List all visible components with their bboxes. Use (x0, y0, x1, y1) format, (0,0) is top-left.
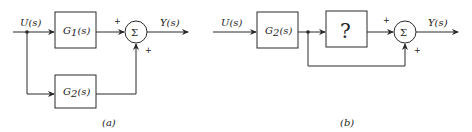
caption-b: (b) (340, 117, 354, 128)
input-label: U(s) (20, 17, 41, 28)
caption-a: (a) (102, 117, 116, 128)
question-mark: ? (340, 19, 351, 43)
plus-sign-top: + (114, 17, 121, 26)
branch-to-g2-line (27, 32, 54, 94)
plus-sign-top: + (383, 16, 390, 25)
g2-to-sum-line (96, 44, 136, 94)
block-diagrams: U(s) G1(s) + G2(s) + Σ Y(s) (a) U(s) G2(… (0, 0, 472, 132)
input-label: U(s) (221, 17, 242, 28)
output-label: Y(s) (160, 17, 180, 28)
plus-sign-bottom: + (145, 46, 152, 55)
diagram-b: U(s) G2(s) ? + + Σ Y(s) (b) (213, 11, 458, 128)
output-label: Y(s) (428, 17, 448, 28)
diagram-a: U(s) G1(s) + G2(s) + Σ Y(s) (a) (13, 12, 188, 128)
plus-sign-bottom: + (414, 46, 421, 55)
sigma-symbol: Σ (131, 27, 138, 38)
sigma-symbol: Σ (400, 27, 407, 38)
